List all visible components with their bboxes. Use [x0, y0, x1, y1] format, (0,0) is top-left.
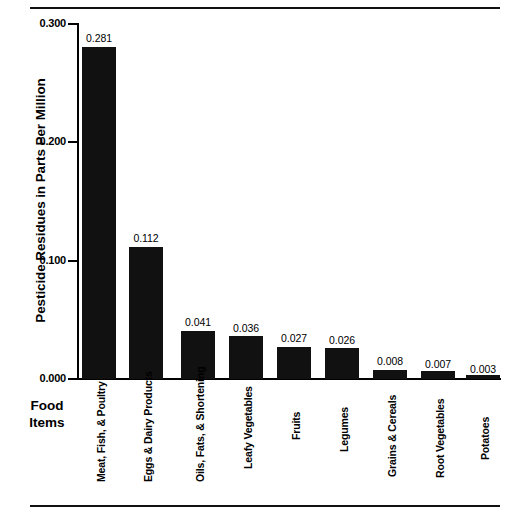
y-tick-mark-2: [68, 260, 77, 262]
bar-value-5: 0.026: [312, 334, 372, 346]
x-category-label-7: Root Vegetables: [434, 399, 446, 478]
y-tick-label-0: 0.300: [0, 17, 66, 29]
bottom-horizontal-rule: [30, 505, 500, 507]
x-category-label-4: Fruits: [290, 412, 302, 440]
y-tick-mark-0: [68, 23, 77, 25]
y-tick-label-2: 0.100: [0, 254, 66, 266]
y-tick-mark-3: [68, 378, 77, 380]
bar-8: [466, 375, 500, 379]
bar-chart-figure: Pesticide Residues in Parts Per Million …: [0, 0, 514, 524]
bar-value-0: 0.281: [69, 32, 129, 44]
bar-0: [82, 47, 116, 380]
bar-6: [373, 370, 407, 380]
x-category-label-5: Legumes: [338, 407, 350, 452]
x-axis-title: Food Items: [14, 398, 80, 432]
bar-4: [277, 347, 311, 379]
bar-5: [325, 348, 359, 379]
y-tick-label-3: 0.000: [0, 372, 66, 384]
bar-7: [421, 371, 455, 379]
bar-3: [229, 336, 263, 379]
y-tick-label-1: 0.200: [0, 135, 66, 147]
y-tick-mark-1: [68, 141, 77, 143]
x-category-label-3: Leafy Vegetables: [242, 386, 254, 469]
x-category-label-8: Potatoes: [479, 417, 491, 460]
x-category-label-1: Eggs & Dairy Products: [142, 371, 154, 482]
bar-value-8: 0.003: [453, 363, 513, 375]
x-category-label-2: Oils, Fats, & Shortening: [194, 367, 206, 482]
y-axis-line: [77, 23, 79, 380]
bar-1: [129, 247, 163, 380]
x-category-label-6: Grains & Cereals: [386, 395, 398, 477]
top-horizontal-rule: [30, 7, 500, 9]
x-category-label-0: Meat, Fish, & Poultry: [95, 381, 107, 482]
y-axis-title: Pesticide Residues in Parts Per Million: [33, 21, 48, 381]
x-axis-title-line-1: Food: [14, 398, 80, 415]
bar-value-1: 0.112: [116, 232, 176, 244]
x-axis-title-line-2: Items: [14, 415, 80, 432]
